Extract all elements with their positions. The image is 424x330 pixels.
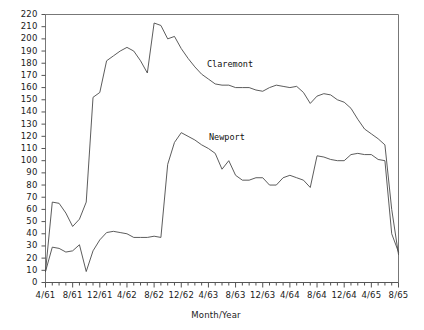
y-tick-label: 190 bbox=[12, 46, 38, 56]
y-tick-label: 70 bbox=[12, 192, 38, 202]
y-tick-label: 210 bbox=[12, 21, 38, 31]
y-tick-label: 200 bbox=[12, 33, 38, 43]
series-annotation-newport: Newport bbox=[209, 132, 245, 142]
x-tick-label: 8/65 bbox=[382, 290, 416, 300]
y-tick-label: 130 bbox=[12, 119, 38, 129]
y-tick-label: 40 bbox=[12, 228, 38, 238]
y-tick-label: 140 bbox=[12, 106, 38, 116]
y-tick-label: 90 bbox=[12, 167, 38, 177]
y-tick-label: 150 bbox=[12, 94, 38, 104]
y-tick-label: 50 bbox=[12, 216, 38, 226]
y-tick-label: 160 bbox=[12, 82, 38, 92]
y-tick-label: 60 bbox=[12, 204, 38, 214]
y-tick-label: 120 bbox=[12, 131, 38, 141]
axis-ticks bbox=[42, 15, 399, 288]
y-tick-label: 0 bbox=[12, 277, 38, 287]
y-tick-label: 180 bbox=[12, 58, 38, 68]
plot-canvas bbox=[0, 0, 424, 330]
y-tick-label: 110 bbox=[12, 143, 38, 153]
y-tick-label: 170 bbox=[12, 70, 38, 80]
y-tick-label: 80 bbox=[12, 180, 38, 190]
y-tick-label: 220 bbox=[12, 9, 38, 19]
y-tick-label: 30 bbox=[12, 240, 38, 250]
x-axis-title: Month/Year bbox=[176, 310, 256, 320]
y-tick-label: 20 bbox=[12, 253, 38, 263]
y-tick-label: 100 bbox=[12, 155, 38, 165]
series-annotation-claremont: Claremont bbox=[207, 59, 253, 69]
y-tick-label: 10 bbox=[12, 265, 38, 275]
series-line-newport bbox=[46, 133, 399, 272]
line-chart: 0102030405060708090100110120130140150160… bbox=[0, 0, 424, 330]
